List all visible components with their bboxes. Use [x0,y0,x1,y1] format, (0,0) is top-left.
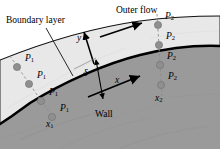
probe-dot [155,41,162,48]
probe-dot [154,21,161,28]
pressure-label-p1: P1 [25,54,34,64]
station-2-subscript: 2 [159,96,162,103]
station-1-subscript: 1 [50,122,53,129]
station-1-label: x1 [46,120,53,130]
pressure-1-subscript: 1 [66,106,69,113]
boundary-layer-label: Boundary layer [6,16,65,26]
y-axis-label: y [77,34,81,44]
pressure-label-p2: P2 [167,52,176,62]
station-2-label: x2 [155,94,162,104]
pressure-1-subscript: 1 [43,73,46,80]
probe-dot [37,97,44,104]
pressure-label-p2: P2 [166,32,175,42]
pressure-2-subscript: 2 [173,54,176,61]
pressure-1-subscript: 1 [55,90,58,97]
x-axis-label: x [115,76,119,86]
probe-dot [156,61,163,68]
pressure-label-p2: P2 [168,72,177,82]
pressure-2-subscript: 2 [174,74,177,81]
pressure-2-subscript: 2 [172,34,175,41]
pressure-label-p1: P1 [37,71,46,81]
probe-dot [157,81,164,88]
outer-flow-label: Outer flow [116,6,157,16]
pressure-label-p1: P1 [49,88,58,98]
pressure-1-subscript: 1 [31,56,34,63]
boundary-layer-diagram: Boundary layer Outer flow Wall δ y x x1 … [0,0,220,149]
pressure-label-p2: P2 [165,12,174,22]
probe-dot [25,80,32,87]
pressure-2-subscript: 2 [171,14,174,21]
wall-label: Wall [95,110,113,120]
probe-dot [13,63,20,70]
delta-label: δ [83,68,88,78]
pressure-label-p1: P1 [60,104,69,114]
